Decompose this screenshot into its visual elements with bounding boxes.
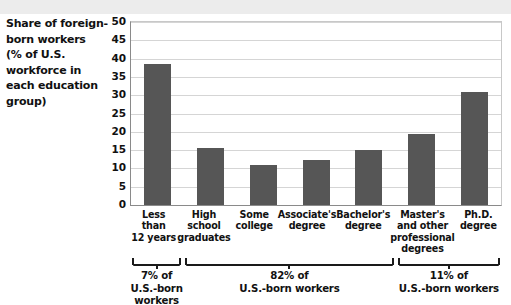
chart-title: Share of foreign- born workers (% of U.S… <box>6 16 110 109</box>
bar <box>197 148 224 205</box>
bar-slot <box>184 22 237 205</box>
bracket-percent: 82% of <box>183 270 396 283</box>
chart-title-line-2: born workers <box>6 32 110 48</box>
x-axis-label-line: graduates <box>177 232 230 243</box>
y-axis-tick-50: 50 <box>104 16 126 26</box>
y-axis-tick-15: 15 <box>104 144 126 154</box>
x-axis-label-line: Associate's <box>278 209 336 220</box>
x-axis-label-line: Less than <box>130 209 177 232</box>
bar <box>461 92 488 205</box>
y-axis-tick-5: 5 <box>104 181 126 191</box>
brace-icon <box>396 258 502 267</box>
bar <box>355 150 382 205</box>
bar-slot <box>131 22 184 205</box>
chart-title-line-1: Share of foreign- <box>6 16 110 32</box>
x-axis-label-line: Ph.D. <box>455 209 502 220</box>
bracket-percent: 7% of <box>130 270 183 283</box>
bar <box>408 134 435 205</box>
y-axis-tick-45: 45 <box>104 34 126 44</box>
x-axis-label: Highschoolgraduates <box>177 209 230 257</box>
brace-icon <box>130 258 183 267</box>
group-brackets: 7% ofU.S.-born workers82% ofU.S.-born wo… <box>130 258 502 303</box>
bar-slot <box>290 22 343 205</box>
y-axis: 50454035302520151050 <box>104 21 126 206</box>
bar <box>250 165 277 205</box>
x-axis-label-line: college <box>231 220 278 231</box>
bar <box>144 64 171 205</box>
x-axis-label-line: High <box>177 209 230 220</box>
bar-slot <box>448 22 501 205</box>
x-axis-label: Associate'sdegree <box>278 209 336 257</box>
x-axis-label-line: Bachelor's <box>336 209 390 220</box>
chart-title-line-3: (% of U.S. <box>6 47 110 63</box>
bar <box>303 160 330 205</box>
x-axis-label-line: Master's <box>390 209 454 220</box>
x-axis-label: Less than12 years <box>130 209 177 257</box>
chart-title-line-4: workforce in <box>6 63 110 79</box>
chart-title-line-6: group) <box>6 94 110 110</box>
bar-slot <box>395 22 448 205</box>
y-axis-tick-20: 20 <box>104 126 126 136</box>
bar-chart: Share of foreign- born workers (% of U.S… <box>0 0 511 305</box>
bracket-who: U.S.-born workers <box>130 283 183 305</box>
y-axis-tick-40: 40 <box>104 53 126 63</box>
x-axis-label-line: 12 years <box>130 232 177 243</box>
x-axis-label-line: degree <box>455 220 502 231</box>
bar-series <box>131 22 501 205</box>
x-axis-label-line: Some <box>231 209 278 220</box>
y-axis-tick-35: 35 <box>104 71 126 81</box>
x-axis-label: Somecollege <box>231 209 278 257</box>
x-axis-label-line: and other <box>390 220 454 231</box>
y-axis-tick-25: 25 <box>104 108 126 118</box>
bar-slot <box>342 22 395 205</box>
bracket-percent: 11% of <box>396 270 502 283</box>
bracket-who: U.S.-born workers <box>396 283 502 296</box>
bracket-label: 7% ofU.S.-born workers <box>130 270 183 305</box>
x-axis-label: Bachelor'sdegree <box>336 209 390 257</box>
plot-area <box>130 21 502 206</box>
bracket-label: 82% ofU.S.-born workers <box>183 270 396 295</box>
bracket-who: U.S.-born workers <box>183 283 396 296</box>
x-axis-label-line: degrees <box>390 243 454 254</box>
x-axis-label-line: school <box>177 220 230 231</box>
x-axis-label: Ph.D.degree <box>455 209 502 257</box>
y-axis-tick-10: 10 <box>104 162 126 172</box>
x-axis-labels: Less than12 yearsHighschoolgraduatesSome… <box>130 209 502 257</box>
y-axis-tick-0: 0 <box>104 199 126 209</box>
brace-icon <box>183 258 396 267</box>
bracket-group: 7% ofU.S.-born workers <box>130 258 183 303</box>
bracket-group: 82% ofU.S.-born workers <box>183 258 396 303</box>
x-axis-label-line: professional <box>390 232 454 243</box>
bracket-group: 11% ofU.S.-born workers <box>396 258 502 303</box>
x-axis-label: Master'sand otherprofessionaldegrees <box>390 209 454 257</box>
x-axis-label-line: degree <box>278 220 336 231</box>
bar-slot <box>237 22 290 205</box>
chart-title-line-5: each education <box>6 78 110 94</box>
x-axis-label-line: degree <box>336 220 390 231</box>
bracket-label: 11% ofU.S.-born workers <box>396 270 502 295</box>
y-axis-tick-30: 30 <box>104 89 126 99</box>
